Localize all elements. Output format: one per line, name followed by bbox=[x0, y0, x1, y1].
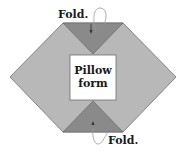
top-fold-label: Fold. bbox=[58, 9, 88, 20]
pillow-form-label-line1: Pillow bbox=[74, 65, 112, 78]
bottom-fold-label: Fold. bbox=[108, 135, 138, 146]
pillow-form-label: Pillow form bbox=[70, 55, 116, 100]
pillow-form-label-line2: form bbox=[78, 78, 108, 91]
